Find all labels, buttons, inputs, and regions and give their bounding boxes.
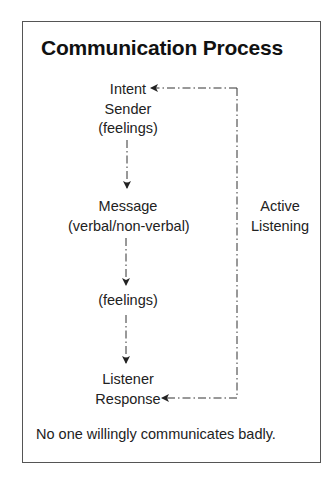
- footer-caption: No one willingly communicates badly.: [36, 426, 276, 442]
- connector-lines: [0, 0, 336, 487]
